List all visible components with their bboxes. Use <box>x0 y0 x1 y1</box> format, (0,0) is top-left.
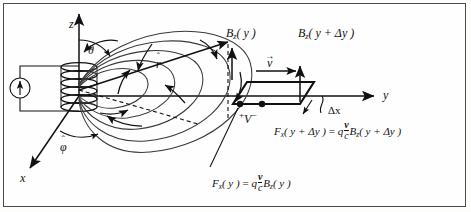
phi-hat-accent: ˆ <box>62 136 65 145</box>
eq2-b-arg: ( y + Δy ) <box>359 125 401 137</box>
velocity-arrow-accent: → <box>265 51 275 61</box>
r-hat-accent: ˆ <box>157 53 160 62</box>
axis-label-y: y <box>383 89 388 101</box>
eq2-charge: q <box>338 125 344 137</box>
eq2-equals: = <box>329 125 335 137</box>
bz-ydy-arg: ( y + Δy ) <box>308 26 354 40</box>
axis-label-z: z <box>69 18 74 30</box>
bz-y-arg: ( y ) <box>236 26 255 40</box>
axis-label-x: x <box>20 172 25 184</box>
eq1-charge: q <box>251 177 257 189</box>
figure-canvas: z y x θ ˆr ˆφ Bz( y ) Bz( y + Δy ) →v Δx… <box>0 0 471 212</box>
equation-force-y-plus-dy: Fx( y + Δy ) = qvcBz( y + Δy ) <box>274 120 401 141</box>
field-label-bz-y: Bz( y ) <box>226 27 256 41</box>
current-source-circuit <box>10 66 79 111</box>
eq2-arg: ( y + Δy ) <box>284 125 326 137</box>
eq1-equals: = <box>242 177 248 189</box>
equation-force-y: Fx( y ) = qvcBz( y ) <box>212 172 291 193</box>
voltage-terminal-label: +V− <box>239 111 257 125</box>
field-label-bz-y-plus-dy: Bz( y + Δy ) <box>298 27 354 41</box>
force-equation-leader <box>210 108 238 167</box>
eq1-fraction: vc <box>258 172 262 193</box>
r-hat-vector <box>79 42 228 124</box>
eq1-frac-num: v <box>258 172 262 182</box>
current-loop <box>233 82 314 104</box>
eq1-b-arg: ( y ) <box>273 177 291 189</box>
velocity-vector-label: →v <box>267 57 272 69</box>
eq2-frac-num: v <box>344 120 348 130</box>
terminal-minus-sign: − <box>251 110 256 120</box>
eq2-frac-den: c <box>344 130 348 141</box>
angle-label-theta: θ <box>88 44 94 56</box>
eq2-f: F <box>274 125 281 137</box>
theta-angle-arc <box>79 40 110 56</box>
eq2-fraction: vc <box>344 120 348 141</box>
delta-x-leader <box>303 96 323 114</box>
eq1-f: F <box>212 177 219 189</box>
delta-x-label: Δx <box>328 105 341 116</box>
eq1-arg: ( y ) <box>222 177 240 189</box>
unit-vector-phi-hat: ˆφ <box>60 141 67 153</box>
eq1-frac-den: c <box>258 182 262 193</box>
unit-vector-r-hat: ˆr <box>156 58 161 70</box>
